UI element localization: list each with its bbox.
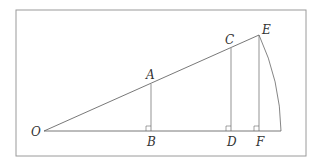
ray-oe [44, 35, 259, 131]
right-angle-marker-d [226, 126, 231, 131]
label-d: D [226, 135, 237, 149]
label-f: F [255, 135, 265, 149]
label-o: O [31, 125, 41, 139]
label-a: A [145, 68, 155, 82]
geometry-diagram: O A B C D E F [0, 0, 323, 167]
arc-e [259, 35, 281, 131]
label-b: B [146, 135, 156, 149]
label-e: E [261, 23, 271, 37]
right-angle-marker-f [254, 126, 259, 131]
right-angle-marker-b [146, 126, 151, 131]
label-c: C [225, 33, 234, 47]
